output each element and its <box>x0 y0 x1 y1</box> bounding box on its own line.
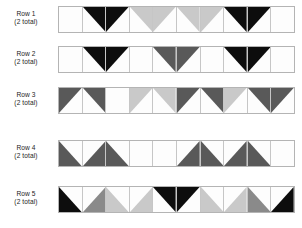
quilt-unit-triangle-tl <box>224 88 248 113</box>
quilt-unit-triangle-tl <box>106 7 130 32</box>
quilt-unit-triangle-bl <box>201 187 225 212</box>
quilt-unit-triangle-tr <box>83 88 107 113</box>
quilt-unit-triangle-tl <box>59 88 83 113</box>
row-label-name: Row 3 <box>0 91 52 99</box>
quilt-unit-triangle-br <box>271 187 294 212</box>
quilt-unit-triangle-tr <box>153 88 177 113</box>
row-strip <box>58 6 295 33</box>
quilt-unit-square <box>59 7 83 32</box>
quilt-unit-triangle-tr <box>130 7 154 32</box>
row-strip <box>58 140 295 167</box>
quilt-unit-triangle-tl <box>248 7 272 32</box>
quilt-unit-triangle-bl <box>248 141 272 166</box>
quilt-unit-triangle-br <box>177 141 201 166</box>
row-strip <box>58 186 295 213</box>
quilt-unit-triangle-tl <box>201 7 225 32</box>
row-label-total: (2 total) <box>0 198 52 206</box>
quilt-unit-triangle-tr <box>177 7 201 32</box>
quilt-unit-triangle-bl <box>106 187 130 212</box>
row-strip <box>58 87 295 114</box>
quilt-unit-triangle-tr <box>201 88 225 113</box>
quilt-unit-square <box>201 47 225 72</box>
row-label: Row 5(2 total) <box>0 190 52 207</box>
quilt-unit-square <box>130 141 154 166</box>
quilt-row-assembly-diagram: Row 1(2 total)Row 2(2 total)Row 3(2 tota… <box>0 0 302 228</box>
row-label: Row 4(2 total) <box>0 144 52 161</box>
quilt-unit-triangle-bl <box>59 141 83 166</box>
quilt-unit-square <box>271 141 294 166</box>
quilt-unit-triangle-br <box>224 141 248 166</box>
quilt-unit-triangle-tr <box>224 47 248 72</box>
quilt-unit-triangle-tl <box>177 187 201 212</box>
quilt-unit-triangle-tr <box>153 187 177 212</box>
quilt-unit-triangle-br <box>224 187 248 212</box>
quilt-unit-triangle-bl <box>201 141 225 166</box>
row-label: Row 1(2 total) <box>0 10 52 27</box>
row-label-total: (2 total) <box>0 58 52 66</box>
row-label-name: Row 1 <box>0 10 52 18</box>
quilt-unit-triangle-bl <box>106 141 130 166</box>
quilt-unit-triangle-bl <box>59 187 83 212</box>
row-label-total: (2 total) <box>0 18 52 26</box>
quilt-unit-triangle-br <box>83 141 107 166</box>
quilt-unit-triangle-tl <box>177 47 201 72</box>
quilt-unit-square <box>59 47 83 72</box>
row-label-total: (2 total) <box>0 152 52 160</box>
quilt-unit-triangle-tl <box>130 88 154 113</box>
quilt-unit-triangle-tr <box>83 7 107 32</box>
row-strip <box>58 46 295 73</box>
quilt-unit-triangle-tr <box>224 7 248 32</box>
row-label: Row 2(2 total) <box>0 50 52 67</box>
row-label-name: Row 2 <box>0 50 52 58</box>
quilt-unit-triangle-tl <box>106 47 130 72</box>
quilt-unit-triangle-tr <box>248 88 272 113</box>
row-label-name: Row 5 <box>0 190 52 198</box>
quilt-unit-triangle-tl <box>271 88 294 113</box>
quilt-unit-square <box>106 88 130 113</box>
quilt-unit-triangle-tr <box>83 47 107 72</box>
quilt-unit-triangle-bl <box>248 187 272 212</box>
quilt-unit-square <box>271 7 294 32</box>
quilt-unit-triangle-br <box>83 187 107 212</box>
row-label-total: (2 total) <box>0 99 52 107</box>
row-label: Row 3(2 total) <box>0 91 52 108</box>
quilt-unit-square <box>271 47 294 72</box>
quilt-unit-triangle-br <box>130 187 154 212</box>
quilt-unit-triangle-tl <box>153 7 177 32</box>
quilt-unit-triangle-tl <box>248 47 272 72</box>
quilt-unit-triangle-tl <box>177 88 201 113</box>
quilt-unit-triangle-tr <box>153 47 177 72</box>
quilt-unit-square <box>153 141 177 166</box>
row-label-name: Row 4 <box>0 144 52 152</box>
quilt-unit-square <box>130 47 154 72</box>
